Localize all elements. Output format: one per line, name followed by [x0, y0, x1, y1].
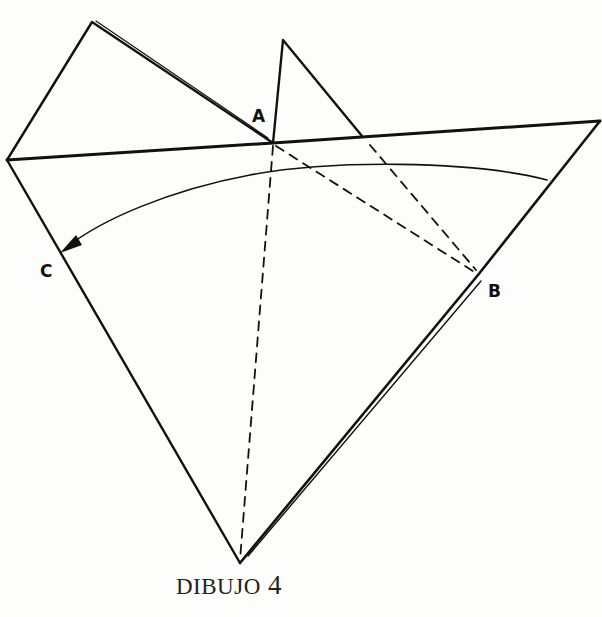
caption-word: DIBUJO — [176, 574, 261, 599]
upper-flap-outline — [273, 40, 362, 143]
point-label-a: A — [252, 106, 265, 126]
left-flap-double-edge — [96, 21, 268, 138]
horizontal-edge — [7, 121, 600, 160]
point-label-b: B — [488, 281, 501, 301]
caption-number: 4 — [268, 570, 282, 600]
left-edge — [7, 160, 240, 563]
right-edge-double — [248, 281, 481, 556]
left-flap-outline — [7, 22, 273, 160]
dashed-line-a-bottom — [240, 146, 273, 560]
point-label-c: C — [40, 261, 52, 281]
figure-caption: DIBUJO 4 — [176, 570, 282, 601]
fold-arrow-arc — [66, 164, 547, 248]
fold-diagram — [0, 0, 602, 617]
right-edge — [240, 121, 600, 563]
